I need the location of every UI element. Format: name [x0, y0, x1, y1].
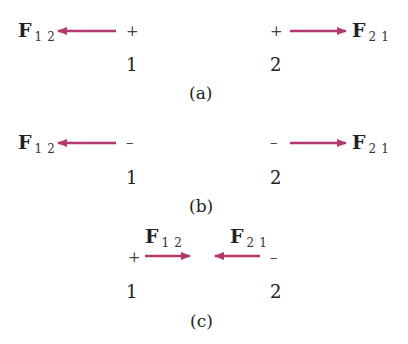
charge-sign-1-a: +	[126, 23, 139, 39]
caption-a: (a)	[189, 83, 212, 103]
force-label-f21-a: F21	[352, 20, 394, 43]
charge-label-2-a: 2	[270, 55, 281, 75]
force-label-f21-b: F21	[352, 132, 394, 155]
charge-sign-2-c: –	[270, 249, 278, 265]
charge-sign-1-b: –	[126, 134, 134, 150]
charge-label-1-c: 1	[126, 282, 137, 302]
charge-sign-1-c: +	[128, 249, 141, 265]
charge-sign-2-b: –	[270, 134, 278, 150]
charge-label-2-c: 2	[270, 282, 281, 302]
charge-label-2-b: 2	[270, 168, 281, 188]
charge-sign-2-a: +	[270, 23, 283, 39]
force-label-f12-b: F12	[18, 132, 60, 155]
charge-label-1-b: 1	[126, 168, 137, 188]
force-label-f21-c: F21	[230, 226, 272, 249]
force-arrows	[0, 0, 408, 344]
charge-label-1-a: 1	[126, 55, 137, 75]
caption-c: (c)	[190, 311, 213, 331]
caption-b: (b)	[189, 196, 213, 216]
force-label-f12-a: F12	[18, 20, 60, 43]
force-label-f12-c: F12	[145, 226, 187, 249]
